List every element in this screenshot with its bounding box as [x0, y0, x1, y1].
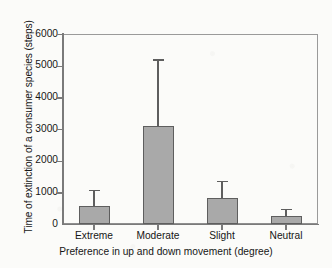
- x-axis-tick-label-neutral: Neutral: [254, 230, 318, 241]
- y-axis-tick-label: 0: [16, 219, 58, 229]
- y-axis-tick-label: 3000: [16, 124, 58, 134]
- error-bar-cap-neutral: [281, 209, 292, 210]
- x-axis-tick-mark: [93, 225, 94, 230]
- y-axis-tick-mark: [57, 161, 62, 162]
- bar-chart-figure: Time of extinction of a consumer species…: [0, 0, 332, 268]
- y-axis-tick-label: 1000: [16, 187, 58, 197]
- plot-area: [62, 34, 318, 224]
- bar-slight: [207, 198, 238, 224]
- error-bar-stem-slight: [221, 181, 222, 198]
- x-axis-tick-label-moderate: Moderate: [126, 230, 190, 241]
- error-bar-cap-moderate: [153, 59, 164, 60]
- y-axis-tick-label: 6000: [16, 29, 58, 39]
- x-axis-tick-mark: [157, 225, 158, 230]
- bar-neutral: [271, 216, 302, 224]
- y-axis-tick-label: 2000: [16, 155, 58, 165]
- y-axis-tick-mark: [57, 34, 62, 35]
- y-axis-tick-label-group: 0100020003000400050006000: [16, 0, 58, 268]
- y-axis-tick-label: 4000: [16, 92, 58, 102]
- x-axis-tick-label-slight: Slight: [190, 230, 254, 241]
- y-axis-tick-mark: [57, 97, 62, 98]
- error-bar-stem-moderate: [157, 59, 158, 125]
- bar-extreme: [79, 206, 110, 224]
- y-axis-tick-label: 5000: [16, 60, 58, 70]
- x-axis-tick-mark: [285, 225, 286, 230]
- y-axis-tick-mark: [57, 129, 62, 130]
- error-bar-stem-extreme: [93, 190, 94, 206]
- x-axis-tick-label-extreme: Extreme: [62, 230, 126, 241]
- error-bar-cap-extreme: [89, 190, 100, 191]
- x-axis-tick-mark: [221, 225, 222, 230]
- bar-moderate: [143, 126, 174, 224]
- error-bar-cap-slight: [217, 181, 228, 182]
- x-axis-title: Preference in up and down movement (degr…: [0, 246, 332, 257]
- y-axis-tick-mark: [57, 192, 62, 193]
- y-axis-tick-mark: [57, 66, 62, 67]
